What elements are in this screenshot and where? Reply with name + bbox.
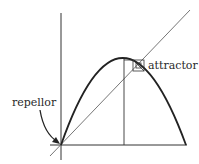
diagonal-line: [50, 10, 190, 156]
attractor-label: attractor: [148, 59, 198, 72]
logistic-map-diagram: attractor repellor: [0, 0, 199, 164]
repellor-arrow: [40, 110, 58, 142]
repellor-label: repellor: [12, 96, 57, 109]
